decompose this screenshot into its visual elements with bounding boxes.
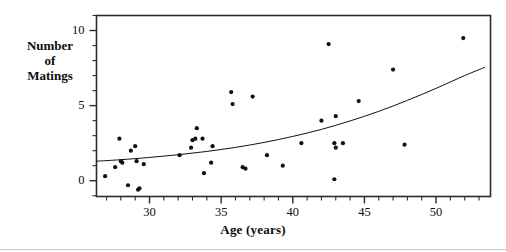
data-point — [231, 102, 235, 106]
data-point — [129, 149, 133, 153]
data-point — [319, 119, 323, 123]
data-point — [113, 165, 117, 169]
fit-curve — [97, 67, 485, 161]
data-point — [265, 153, 269, 157]
y-tick-label: 5 — [51, 98, 85, 113]
data-point — [209, 161, 213, 165]
x-tick-label: 35 — [201, 205, 241, 220]
data-point — [341, 141, 345, 145]
data-point — [229, 90, 233, 94]
data-point — [332, 177, 336, 181]
y-tick-label: 10 — [51, 23, 85, 38]
data-point — [137, 186, 141, 190]
data-point — [332, 141, 336, 145]
x-tick-label: 30 — [130, 205, 170, 220]
data-point — [357, 99, 361, 103]
data-point — [299, 141, 303, 145]
data-point — [334, 146, 338, 150]
scatter-plot-figure: Number of Matings Age (years) 3035404550… — [0, 0, 506, 252]
page-bottom-rule — [0, 249, 506, 250]
data-point — [200, 137, 204, 141]
data-point — [402, 143, 406, 147]
data-point — [243, 167, 247, 171]
data-point — [193, 137, 197, 141]
data-point — [126, 183, 130, 187]
x-tick-label: 50 — [416, 205, 456, 220]
x-axis-ticks — [107, 197, 480, 204]
y-axis-ticks — [90, 16, 97, 196]
data-point — [135, 159, 139, 163]
data-point — [178, 153, 182, 157]
data-point — [334, 114, 338, 118]
data-point — [251, 95, 255, 99]
data-point — [202, 171, 206, 175]
data-point — [461, 36, 465, 40]
data-point — [195, 126, 199, 130]
data-point — [189, 146, 193, 150]
data-point — [142, 162, 146, 166]
data-point — [210, 144, 214, 148]
data-point — [327, 42, 331, 46]
data-point — [103, 174, 107, 178]
data-point — [281, 164, 285, 168]
data-points-group — [103, 36, 465, 192]
data-point — [117, 137, 121, 141]
x-tick-label: 40 — [273, 205, 313, 220]
y-tick-label: 0 — [51, 173, 85, 188]
data-point — [133, 144, 137, 148]
data-point — [120, 161, 124, 165]
plot-frame — [97, 16, 491, 197]
x-tick-label: 45 — [344, 205, 384, 220]
data-point — [391, 67, 395, 71]
